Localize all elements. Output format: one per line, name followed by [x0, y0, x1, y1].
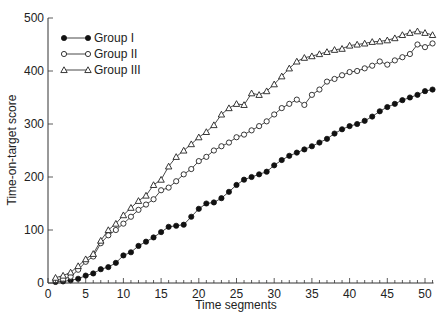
y-tick-label: 300 — [24, 117, 44, 131]
x-tick-label: 0 — [45, 287, 52, 301]
legend-item: Group III — [61, 63, 141, 77]
y-tick-label: 0 — [37, 276, 44, 290]
legend-label: Group III — [94, 63, 141, 77]
series-group-i — [53, 87, 435, 285]
x-tick-label: 50 — [418, 287, 432, 301]
x-tick-label: 15 — [154, 287, 168, 301]
legend-item: Group I — [61, 31, 134, 45]
x-tick-label: 40 — [343, 287, 357, 301]
x-tick-label: 45 — [381, 287, 395, 301]
x-axis-label: Time segments — [195, 298, 277, 312]
y-axis: 0100200300400500 — [24, 11, 53, 290]
legend: Group IGroup IIGroup III — [61, 31, 141, 77]
line-chart: 05101520253035404550 0100200300400500 Ti… — [0, 0, 441, 323]
y-tick-label: 500 — [24, 11, 44, 25]
y-axis-label: Time-on-target score — [5, 94, 19, 205]
series-group-ii — [53, 41, 435, 283]
legend-label: Group I — [94, 31, 134, 45]
x-tick-label: 5 — [82, 287, 89, 301]
legend-item: Group II — [61, 47, 137, 61]
x-tick-label: 35 — [305, 287, 319, 301]
y-tick-label: 100 — [24, 223, 44, 237]
y-tick-label: 400 — [24, 64, 44, 78]
y-tick-label: 200 — [24, 170, 44, 184]
x-tick-label: 10 — [117, 287, 131, 301]
legend-label: Group II — [94, 47, 137, 61]
